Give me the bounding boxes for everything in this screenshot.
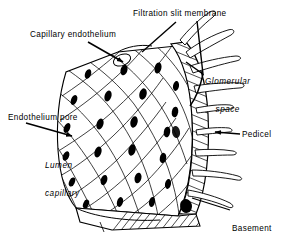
label-pedicel: Pedicel	[242, 130, 271, 139]
label-lumen-line1: Lumen	[45, 161, 80, 170]
label-basement-membrane: Basement membrane	[232, 206, 274, 239]
label-capillary-endothelium: Capillary endothelium	[30, 30, 116, 39]
label-lumen-line2: capillary	[45, 189, 80, 198]
label-lumen-capillary: Lumen capillary	[45, 143, 80, 217]
label-basement-line1: Basement	[232, 224, 274, 233]
label-glomerular-space: Glomerular space	[205, 59, 251, 133]
label-glomerular-space-line1: Glomerular	[205, 77, 251, 86]
label-endothelium-pore: Endothelium pore	[8, 113, 78, 122]
label-glomerular-space-line2: space	[205, 105, 251, 114]
label-filtration-slit-membrane: Filtration slit membrane	[133, 9, 227, 18]
anatomical-figure: Filtration slit membrane Capillary endot…	[0, 0, 285, 239]
